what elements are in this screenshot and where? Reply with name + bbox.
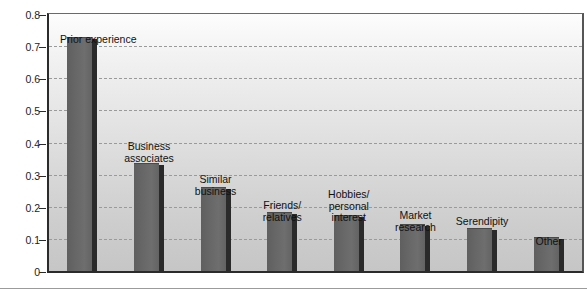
y-axis-tick-label: 0.6 <box>4 74 40 85</box>
y-axis-tick-mark <box>39 47 46 48</box>
bar-shadow <box>226 189 231 271</box>
bar-chart-figure: 0.80.70.60.50.40.30.20.10 Prior experien… <box>0 0 587 297</box>
gridline <box>49 78 582 79</box>
y-axis-tick-label: 0.4 <box>4 138 40 149</box>
y-axis-tick-mark <box>39 208 46 209</box>
plot-area: Prior experienceBusiness associatesSimil… <box>47 13 584 273</box>
y-axis-tick-mark <box>39 111 46 112</box>
y-axis-tick-label: 0.5 <box>4 106 40 117</box>
y-axis-tick-label: 0.2 <box>4 203 40 214</box>
y-axis-tick-mark <box>39 15 46 16</box>
y-axis-tick-mark <box>39 240 46 241</box>
gridline <box>49 110 582 111</box>
y-axis-tick-mark <box>39 144 46 145</box>
bar-label: Serendipity <box>439 216 525 228</box>
bar[interactable] <box>201 187 226 271</box>
bar-label: Other <box>506 236 584 248</box>
bar[interactable] <box>467 228 492 271</box>
bar-label: Business associates <box>106 141 192 164</box>
bottom-divider <box>0 288 587 289</box>
bar-shadow <box>159 165 164 271</box>
bar-shadow <box>92 39 97 272</box>
bar-shadow <box>425 226 430 271</box>
y-axis-tick-label: 0 <box>4 267 40 278</box>
y-axis-tick-label: 0.1 <box>4 235 40 246</box>
bar[interactable] <box>67 37 92 272</box>
gridline <box>49 46 582 47</box>
bar-label: Prior experience <box>55 34 141 46</box>
bar-label: Similar business <box>173 174 259 197</box>
gridline <box>49 175 582 176</box>
bar-shadow <box>359 217 364 271</box>
y-axis-tick-mark <box>39 176 46 177</box>
y-axis-tick-label: 0.7 <box>4 42 40 53</box>
y-axis-tick-label: 0.3 <box>4 170 40 181</box>
y-axis-tick-mark <box>39 272 46 273</box>
bar[interactable] <box>134 163 159 271</box>
y-axis-tick-label: 0.8 <box>4 10 40 21</box>
y-axis-tick-mark <box>39 79 46 80</box>
y-axis: 0.80.70.60.50.40.30.20.10 <box>0 0 40 297</box>
gridline <box>49 239 582 240</box>
bar-shadow <box>492 230 497 271</box>
